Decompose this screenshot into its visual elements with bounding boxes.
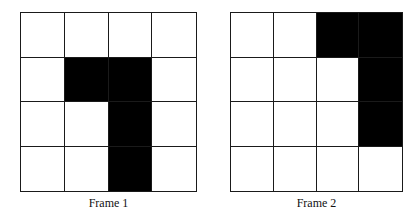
grid-cell — [231, 13, 274, 58]
grid-cell — [152, 58, 196, 103]
grid-cell — [317, 58, 360, 103]
grid-cell — [231, 147, 274, 192]
grid-cell — [21, 13, 65, 58]
grid-cell — [359, 58, 402, 103]
grid-cell — [109, 102, 153, 147]
grid-cell — [152, 102, 196, 147]
grid-cell — [317, 102, 360, 147]
grid-cell — [274, 58, 317, 103]
grid-cell — [109, 58, 153, 103]
grid-cell — [359, 147, 402, 192]
grid-cell — [109, 13, 153, 58]
grid-cell — [359, 102, 402, 147]
grid-cell — [21, 102, 65, 147]
grid-cell — [231, 102, 274, 147]
grid-cell — [317, 147, 360, 192]
grid-cell — [65, 58, 109, 103]
grid-cell — [65, 147, 109, 192]
grid-cell — [317, 13, 360, 58]
grid-cell — [21, 147, 65, 192]
grid-cell — [152, 13, 196, 58]
grid-cell — [152, 147, 196, 192]
grid-cell — [274, 102, 317, 147]
frame-1-grid — [20, 12, 197, 192]
grid-cell — [274, 147, 317, 192]
grid-cell — [359, 13, 402, 58]
grid-cell — [231, 58, 274, 103]
frame-2-caption: Frame 2 — [230, 196, 403, 211]
grid-cell — [109, 147, 153, 192]
grid-cell — [21, 58, 65, 103]
frame-2-grid — [230, 12, 403, 192]
grid-cell — [65, 13, 109, 58]
frame-1-caption: Frame 1 — [20, 196, 197, 211]
grid-cell — [274, 13, 317, 58]
grid-cell — [65, 102, 109, 147]
